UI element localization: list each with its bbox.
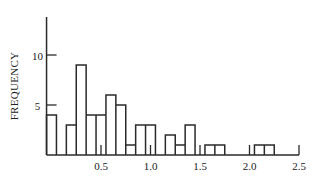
x-tick-label: 2.5 xyxy=(292,160,306,172)
x-tick-label: 0.5 xyxy=(94,160,108,172)
y-tick-label: 5 xyxy=(35,100,41,112)
histogram-outline xyxy=(47,65,275,155)
x-tick-label: 2.0 xyxy=(243,160,257,172)
histogram-chart xyxy=(0,0,317,180)
x-axis-ticks xyxy=(101,145,299,155)
y-axis-ticks xyxy=(47,55,57,105)
y-axis-label: FREQUENCY xyxy=(8,52,20,121)
x-tick-label: 1.0 xyxy=(144,160,158,172)
x-tick-label: 1.5 xyxy=(193,160,207,172)
y-tick-label: 10 xyxy=(32,50,43,62)
